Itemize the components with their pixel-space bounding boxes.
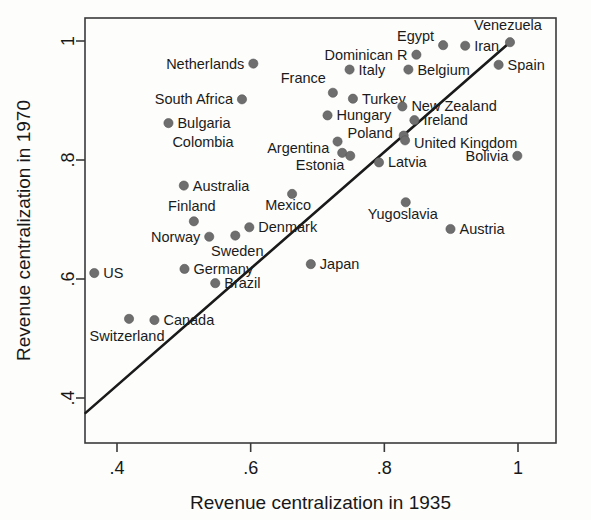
data-point-austria	[446, 224, 455, 233]
x-axis-title: Revenue centralization in 1935	[190, 492, 451, 513]
point-label-canada: Canada	[163, 312, 215, 328]
point-label-ireland: Ireland	[423, 112, 467, 128]
y-tick-label-3: 1	[58, 36, 78, 46]
x-tick-label-2: .8	[377, 458, 392, 478]
point-label-spain: Spain	[508, 57, 545, 73]
point-label-bolivia: Bolivia	[466, 148, 510, 164]
data-point-brazil	[211, 279, 220, 288]
data-point-germany	[180, 264, 189, 273]
data-point-bolivia	[513, 151, 522, 160]
x-tick-label-0: .4	[109, 458, 124, 478]
point-label-brazil: Brazil	[224, 275, 260, 291]
point-label-japan: Japan	[320, 256, 360, 272]
data-point-belgium	[404, 65, 413, 74]
data-point-colombia	[333, 137, 342, 146]
point-label-australia: Australia	[193, 178, 250, 194]
data-point-netherlands	[249, 59, 258, 68]
data-point-france	[328, 88, 337, 97]
data-point-ireland	[410, 116, 419, 125]
data-point-venezuela	[505, 38, 514, 47]
data-point-norway	[205, 232, 214, 241]
point-label-egypt: Egypt	[397, 28, 434, 44]
data-point-turkey	[348, 94, 357, 103]
data-point-italy	[345, 65, 354, 74]
data-point-latvia	[374, 158, 383, 167]
data-point-spain	[494, 60, 503, 69]
plot-canvas: .4.6.81.4.6.81Revenue centralization in …	[0, 0, 591, 520]
point-label-estonia: Estonia	[296, 157, 345, 173]
point-label-norway: Norway	[151, 229, 201, 245]
data-point-new-zealand	[398, 102, 407, 111]
data-point-united-kingdom	[400, 136, 409, 145]
data-point-australia	[179, 181, 188, 190]
point-label-hungary: Hungary	[337, 107, 393, 123]
data-point-sweden	[231, 231, 240, 240]
data-point-hungary	[323, 111, 332, 120]
point-label-sweden: Sweden	[211, 243, 263, 259]
data-point-estonia	[346, 151, 355, 160]
data-point-japan	[306, 260, 315, 269]
y-tick-label-2: .8	[58, 152, 78, 167]
point-label-mexico: Mexico	[265, 197, 311, 213]
data-point-bulgaria	[164, 119, 173, 128]
point-label-denmark: Denmark	[258, 219, 318, 235]
data-point-canada	[150, 315, 159, 324]
point-label-switzerland: Switzerland	[90, 328, 165, 344]
point-label-colombia: Colombia	[172, 134, 234, 150]
point-label-bulgaria: Bulgaria	[177, 115, 231, 131]
y-tick-label-0: .4	[58, 390, 78, 405]
data-point-dominican-r	[412, 50, 421, 59]
data-point-denmark	[245, 223, 254, 232]
point-label-france: France	[281, 70, 326, 86]
point-label-us: US	[103, 265, 123, 281]
point-label-italy: Italy	[359, 62, 386, 78]
point-label-austria: Austria	[459, 221, 505, 237]
point-label-iran: Iran	[474, 38, 499, 54]
y-axis-title: Revenue centralization in 1970	[13, 100, 34, 361]
data-point-egypt	[439, 41, 448, 50]
point-label-dominican-r: Dominican R	[324, 47, 407, 63]
point-label-belgium: Belgium	[417, 62, 469, 78]
point-label-south-africa: South Africa	[155, 91, 234, 107]
x-tick-label-3: 1	[513, 458, 523, 478]
point-label-yugoslavia: Yugoslavia	[368, 206, 439, 222]
point-label-argentina: Argentina	[267, 140, 330, 156]
data-point-finland	[189, 217, 198, 226]
point-label-netherlands: Netherlands	[166, 56, 244, 72]
point-label-venezuela: Venezuela	[474, 17, 543, 33]
point-label-finland: Finland	[168, 198, 216, 214]
x-tick-label-1: .6	[243, 458, 258, 478]
data-point-south-africa	[237, 95, 246, 104]
scatter-plot-figure: .4.6.81.4.6.81Revenue centralization in …	[0, 0, 591, 520]
data-point-iran	[461, 41, 470, 50]
data-point-switzerland	[124, 314, 133, 323]
data-point-us	[90, 268, 99, 277]
point-label-poland: Poland	[348, 125, 393, 141]
point-label-latvia: Latvia	[388, 154, 428, 170]
y-tick-label-1: .6	[58, 271, 78, 286]
